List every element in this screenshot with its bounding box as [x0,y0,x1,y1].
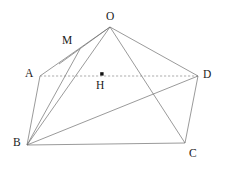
vertex-dot-group [100,72,103,75]
edge-O-C [110,27,185,143]
edge-A-B [27,76,40,145]
edge-B-M [27,49,80,145]
edge-C-D [185,76,198,143]
vertex-label-A: A [25,68,33,80]
vertex-label-C: C [189,148,197,160]
edge-B-C [27,143,185,145]
edge-group [27,27,198,145]
vertex-label-O: O [106,11,114,23]
vertex-label-D: D [203,69,211,81]
geometry-figure: O M A D H B C [0,0,227,171]
vertex-label-B: B [13,137,21,149]
vertex-label-H: H [96,80,104,92]
edge-O-D [110,27,198,76]
edge-B-D [27,76,198,145]
vertex-dot-H [100,72,103,75]
geometry-canvas [0,0,227,171]
vertex-label-M: M [62,35,72,47]
